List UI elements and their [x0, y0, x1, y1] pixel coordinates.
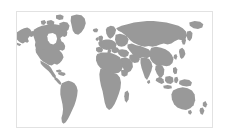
world-map-figure: World Map — [0, 0, 230, 140]
map-frame — [16, 11, 213, 128]
world-map-canvas[interactable] — [17, 12, 212, 127]
